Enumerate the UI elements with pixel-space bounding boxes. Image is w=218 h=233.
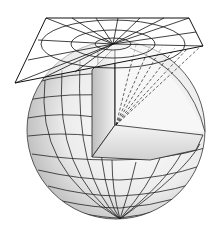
globe-projection-illustration bbox=[0, 0, 218, 233]
projection-diagram bbox=[0, 0, 218, 233]
